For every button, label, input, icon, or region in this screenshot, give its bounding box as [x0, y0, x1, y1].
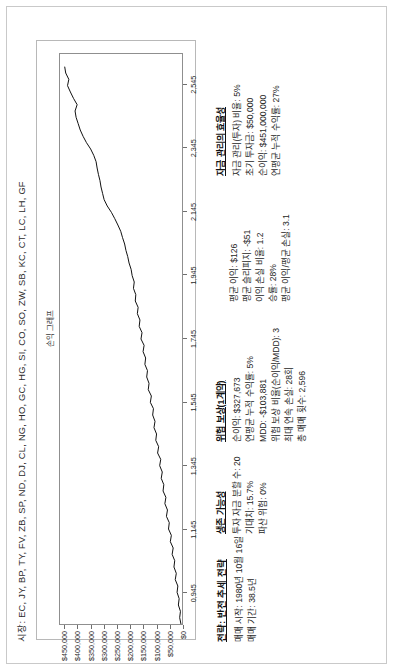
- value-axis-tick: [64, 625, 65, 629]
- trade-axis-tick: [183, 84, 187, 85]
- risk-reward-column: 위험 보상(1계약) 순이익: $327,673 연평균 누적 수익률: 5% …: [214, 302, 309, 442]
- value-axis-tick: [183, 625, 184, 629]
- capital-management-title: 자금 관리의 효율성: [214, 36, 227, 176]
- risk-reward-line-7: 평균 슬리피지: -$51: [241, 176, 254, 302]
- risk-reward-line-3: 위험 보상 비율(순이익/MDD): 3: [270, 302, 283, 442]
- risk-reward-line-8: 이익 손실 비율: 1.2: [254, 176, 267, 302]
- trade-axis-tick: [183, 402, 187, 403]
- risk-reward-line-1: 연평균 누적 수익률: 5%: [244, 302, 257, 442]
- value-axis-tick: [117, 625, 118, 629]
- survivability-line-1: 기대치: 15.7%: [244, 442, 257, 534]
- market-list-line: 시장: EC, JY, BP, TY, FV, ZB, SP, ND, DJ, …: [14, 181, 28, 642]
- capital-management-line-3: 연평균 누적 수익률: 27%: [270, 36, 283, 176]
- strategy-title: 전략: 반전 추세 전략: [214, 534, 228, 642]
- trade-axis-label: 0,945: [189, 584, 198, 602]
- trade-axis-label: 1,745: [189, 330, 198, 348]
- capital-management-column: 자금 관리의 효율성 자금 관리(투자) 비율: 5% 초기 투자금: $50,…: [214, 36, 309, 176]
- value-axis-label: $100,000: [152, 631, 161, 661]
- trade-axis-tick: [183, 147, 187, 148]
- value-axis-label: $150,000: [139, 631, 148, 661]
- value-axis-label: $300,000: [99, 631, 108, 661]
- value-axis-tick: [170, 625, 171, 629]
- value-axis-label: $250,000: [113, 631, 122, 661]
- duration-line: 매매 기간: 38.5년: [246, 534, 259, 642]
- value-axis-tick: [91, 625, 92, 629]
- trade-axis-tick: [183, 211, 187, 212]
- trade-axis-label: 2,345: [189, 139, 198, 157]
- risk-reward-title: 위험 보상(1계약): [214, 302, 227, 442]
- survivability-column: 생존 가능성 투자 자금 분할 수: 20 기대치: 15.7% 파산 위험: …: [214, 442, 309, 534]
- plot-area: [59, 53, 183, 625]
- value-axis-tick: [157, 625, 158, 629]
- survivability-line-2: 파산 위험: 0%: [257, 442, 270, 534]
- risk-reward-line-2: MDD: -$103,881: [257, 302, 270, 442]
- survivability-title: 생존 가능성: [214, 442, 227, 534]
- strategy-column: 전략: 반전 추세 전략 매매 시작: 1980년 10월 16일 매매 기간:…: [214, 534, 309, 642]
- value-axis-label: $450,000: [60, 631, 69, 661]
- risk-reward-line-5: 총 매매 횟수: 2,596: [296, 302, 309, 442]
- capital-management-line-1: 초기 투자금: $50,000: [244, 36, 257, 176]
- statistics-block: 전략: 반전 추세 전략 매매 시작: 1980년 10월 16일 매매 기간:…: [214, 32, 309, 642]
- capital-management-line-2: 순이익: $451,000,000: [257, 36, 270, 176]
- risk-reward-line-0: 순이익: $327,673: [231, 302, 244, 442]
- value-axis-label: $400,000: [73, 631, 82, 661]
- value-axis-label: $200,000: [126, 631, 135, 661]
- trade-axis-label: 2,145: [189, 203, 198, 221]
- risk-reward-column-2: 평균 이익: $126 평균 슬리피지: -$51 이익 손실 비율: 1.2 …: [214, 176, 309, 302]
- value-axis-tick: [77, 625, 78, 629]
- value-axis-tick: [130, 625, 131, 629]
- equity-curve-chart-panel: 손익 그래프 $450,000$400,000$350,000$300,000$…: [36, 40, 196, 640]
- capital-management-line-0: 자금 관리(투자) 비율: 5%: [231, 36, 244, 176]
- trade-axis-tick: [183, 338, 187, 339]
- trade-axis-label: 2,545: [189, 76, 198, 94]
- trade-axis-label: 1,945: [189, 266, 198, 284]
- trade-axis-tick: [183, 465, 187, 466]
- trade-axis-label: 1,345: [189, 457, 198, 475]
- risk-reward-line-9: 승률: 28%: [267, 176, 280, 302]
- trade-axis-tick: [183, 274, 187, 275]
- value-axis-label: $50,000: [165, 631, 174, 657]
- survivability-line-0: 투자 자금 분할 수: 20: [231, 442, 244, 534]
- trade-axis-tick: [183, 592, 187, 593]
- risk-reward-line-6: 평균 이익: $126: [228, 176, 241, 302]
- value-axis-label: $350,000: [86, 631, 95, 661]
- trade-axis-tick: [183, 529, 187, 530]
- start-date-line: 매매 시작: 1980년 10월 16일: [233, 534, 246, 642]
- equity-curve-line: [60, 54, 182, 624]
- chart-title: 손익 그래프: [44, 310, 55, 347]
- risk-reward-line-10: 평균 이익/평균 손실: 3.1: [280, 176, 293, 302]
- trade-axis-label: 1,545: [189, 394, 198, 412]
- trade-axis-label: 1,145: [189, 521, 198, 539]
- value-axis-tick: [104, 625, 105, 629]
- value-axis-tick: [143, 625, 144, 629]
- document-page: 시장: EC, JY, BP, TY, FV, ZB, SP, ND, DJ, …: [0, 0, 393, 670]
- trade-count-axis: 2,5452,3452,1451,9451,7451,5451,3451,145…: [183, 53, 199, 625]
- value-axis-label: $0: [179, 631, 188, 639]
- value-axis: $450,000$400,000$350,000$300,000$250,000…: [59, 625, 183, 639]
- risk-reward-line-4: 최대 연속 손실: 28회: [283, 302, 296, 442]
